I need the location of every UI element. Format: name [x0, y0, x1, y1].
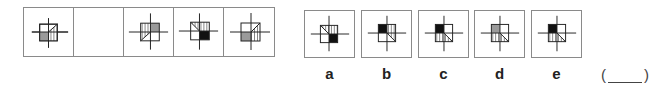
sequence-strip: [23, 7, 275, 57]
answer-open-paren: (: [601, 66, 606, 83]
cube-figure-icon: [24, 8, 73, 56]
sequence-cell-1: [24, 8, 74, 56]
answer-blank[interactable]: (): [601, 66, 649, 83]
option-label-d: d: [474, 65, 525, 82]
cube-figure-icon: [362, 11, 411, 57]
sequence-cell-4: [174, 8, 224, 56]
sequence-cell-3: [124, 8, 174, 56]
sequence-cell-2-blank: [74, 8, 124, 56]
option-c-figure[interactable]: [418, 10, 469, 58]
answer-input-line[interactable]: [608, 68, 642, 83]
cube-figure-icon: [532, 11, 581, 57]
option-e-figure[interactable]: [531, 10, 582, 58]
option-a-figure[interactable]: [304, 10, 355, 58]
option-label-c: c: [418, 65, 469, 82]
cube-figure-icon: [124, 8, 173, 56]
cube-figure-icon: [475, 11, 524, 57]
cube-figure-icon: [419, 11, 468, 57]
cube-figure-icon: [224, 8, 274, 56]
cube-figure-icon: [174, 8, 223, 56]
option-label-a: a: [304, 65, 355, 82]
sequence-cell-5: [224, 8, 274, 56]
cube-figure-icon: [305, 11, 354, 57]
option-label-e: e: [531, 65, 582, 82]
option-d-figure[interactable]: [474, 10, 525, 58]
answer-close-paren: ): [644, 66, 649, 83]
option-label-b: b: [361, 65, 412, 82]
option-b-figure[interactable]: [361, 10, 412, 58]
